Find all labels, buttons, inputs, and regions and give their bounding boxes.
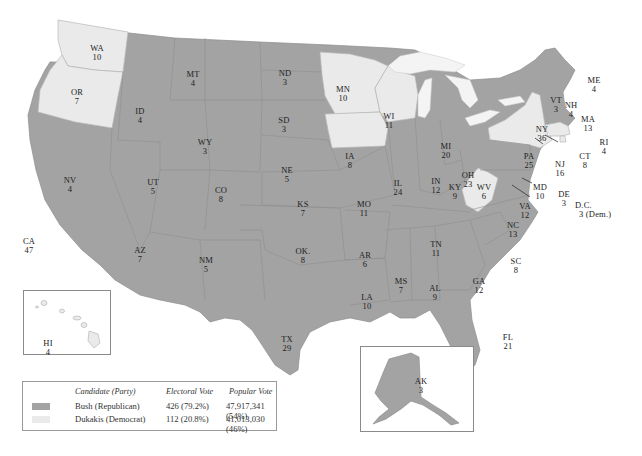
state-label-ms: MS7 [395, 277, 408, 295]
state-electoral-votes: 12 [473, 286, 486, 295]
legend-swatch-republican [32, 403, 50, 410]
legend-electoral: 426 (79.2%) [166, 401, 209, 411]
legend-popular: 41,013,030 (46%) [226, 414, 276, 434]
state-label-ks: KS7 [297, 200, 308, 218]
state-label-md: MD10 [533, 183, 547, 201]
state-electoral-votes: 12 [519, 211, 531, 220]
state-label-nc: NC13 [507, 221, 519, 239]
state-electoral-votes: 5 [281, 175, 293, 184]
state-electoral-votes: 8 [295, 256, 310, 265]
state-label-oh: OH23 [462, 171, 475, 189]
state-electoral-votes: 7 [134, 255, 146, 264]
legend-header-popular: Popular Vote [229, 387, 273, 396]
state-label-mn: MN10 [336, 85, 350, 103]
state-label-la: LA10 [361, 293, 373, 311]
state-label-al: AL9 [429, 284, 441, 302]
state-label-ny: NY36 [536, 125, 549, 143]
state-label-in: IN12 [431, 177, 440, 195]
hawaii-inset [23, 290, 111, 355]
state-label-vt: VT3 [550, 96, 562, 114]
state-electoral-votes: 7 [395, 286, 408, 295]
state-label-ut: UT5 [147, 178, 159, 196]
state-label-ct: CT8 [579, 152, 590, 170]
state-electoral-votes: 13 [581, 124, 595, 133]
state-label-ne: NE5 [281, 166, 293, 184]
state-electoral-votes: 11 [357, 209, 371, 218]
hawaii-islands [24, 291, 110, 354]
state-electoral-votes: 3 [415, 386, 428, 395]
state-electoral-votes: 20 [441, 151, 452, 160]
state-label-dc: D.C.3 (Dem.) [575, 201, 611, 219]
state-IA [325, 112, 388, 148]
legend-electoral: 112 (20.8%) [166, 414, 209, 424]
state-electoral-votes: 8 [345, 161, 354, 170]
state-label-ar: AR6 [359, 251, 371, 269]
state-label-mi: MI20 [441, 142, 452, 160]
state-electoral-votes: 16 [555, 169, 565, 178]
state-electoral-votes: 23 [462, 180, 475, 189]
state-electoral-votes: 3 [279, 78, 292, 87]
state-electoral-votes: 21 [503, 342, 513, 351]
state-label-wy: WY3 [198, 138, 213, 156]
state-electoral-votes: 8 [511, 266, 522, 275]
state-electoral-votes: 11 [430, 249, 442, 258]
state-label-ma: MA13 [581, 115, 595, 133]
legend-header-candidate: Candidate (Party) [75, 387, 136, 396]
state-electoral-votes: 10 [336, 94, 350, 103]
state-electoral-votes: 10 [361, 302, 373, 311]
state-label-pa: PA25 [524, 152, 535, 170]
state-electoral-votes: 10 [533, 192, 547, 201]
state-electoral-votes: 11 [383, 121, 394, 130]
state-label-tx: TX29 [281, 335, 293, 353]
state-label-va: VA12 [519, 202, 531, 220]
state-label-co: CO8 [215, 186, 227, 204]
state-label-ia: IA8 [345, 152, 354, 170]
state-label-hi: HI4 [43, 339, 52, 357]
state-label-sd: SD3 [278, 116, 289, 134]
state-electoral-votes: 29 [281, 344, 293, 353]
state-label-ri: RI4 [600, 138, 609, 156]
state-electoral-votes: 4 [600, 147, 609, 156]
state-electoral-votes: 3 [198, 147, 213, 156]
state-label-nj: NJ16 [555, 160, 565, 178]
state-electoral-votes: 6 [359, 260, 371, 269]
legend-row-dukakis: Dukakis (Democrat) 112 (20.8%) 41,013,03… [23, 414, 276, 426]
state-electoral-votes: 36 [536, 134, 549, 143]
state-label-mt: MT4 [186, 70, 199, 88]
state-electoral-votes: 8 [579, 161, 590, 170]
state-electoral-votes: 4 [43, 348, 52, 357]
state-label-me: ME4 [587, 76, 600, 94]
state-electoral-votes: 6 [477, 192, 492, 201]
state-label-ky: KY9 [449, 183, 462, 201]
state-electoral-votes: 7 [71, 97, 83, 106]
legend-row-bush: Bush (Republican) 426 (79.2%) 47,917,341… [23, 401, 276, 413]
state-electoral-votes: 3 [278, 125, 289, 134]
state-label-mo: MO11 [357, 200, 371, 218]
state-label-id: ID4 [135, 107, 144, 125]
state-electoral-votes: 4 [186, 79, 199, 88]
state-electoral-votes: 47 [23, 246, 35, 255]
state-label-tn: TN11 [430, 240, 442, 258]
state-label-il: IL24 [394, 179, 403, 197]
state-electoral-votes: 7 [297, 209, 308, 218]
legend-candidate: Dukakis (Democrat) [75, 414, 145, 424]
state-label-nh: NH4 [565, 101, 578, 119]
state-label-de: DE3 [558, 190, 570, 208]
state-label-nd: ND3 [279, 69, 292, 87]
legend: Candidate (Party) Electoral Vote Popular… [22, 381, 277, 431]
state-label-ak: AK3 [415, 377, 428, 395]
state-electoral-votes: 4 [587, 85, 600, 94]
state-label-sc: SC8 [511, 257, 522, 275]
state-electoral-votes: 9 [429, 293, 441, 302]
state-label-or: OR7 [71, 88, 83, 106]
state-label-wa: WA10 [90, 44, 104, 62]
state-electoral-votes: 24 [394, 188, 403, 197]
state-electoral-votes: 9 [449, 192, 462, 201]
state-electoral-votes: 25 [524, 161, 535, 170]
state-electoral-votes: 3 [558, 199, 570, 208]
state-label-nv: NV4 [64, 176, 77, 194]
state-label-ok: OK.8 [295, 247, 310, 265]
state-electoral-votes: 10 [90, 53, 104, 62]
state-RI [560, 136, 566, 142]
state-electoral-votes: 3 (Dem.) [579, 210, 611, 219]
